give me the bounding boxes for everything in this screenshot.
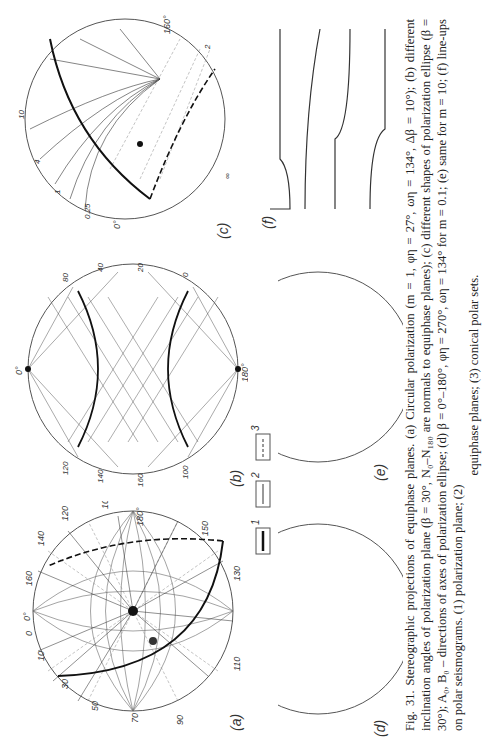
stereonet-d: [278, 509, 403, 739]
svg-text:∞: ∞: [223, 173, 232, 179]
stereonet-a: 90705030 1000°160 140120100 110130150180…: [8, 501, 248, 731]
svg-text:120: 120: [61, 461, 70, 475]
svg-text:10: 10: [36, 651, 46, 661]
svg-text:0°: 0°: [112, 220, 122, 229]
svg-text:180°: 180°: [240, 363, 248, 382]
svg-text:70: 70: [130, 713, 140, 723]
panel-a: 90705030 1000°160 140120100 110130150180…: [8, 501, 248, 731]
polar-seismograms-f: [260, 9, 400, 229]
svg-text:0°: 0°: [14, 366, 24, 375]
legend-num-2: 2: [250, 472, 261, 478]
legend-num-3: 3: [250, 425, 261, 431]
panel-label-a: (a): [228, 714, 244, 731]
svg-text:100: 100: [100, 501, 110, 509]
svg-text:150: 150: [200, 521, 210, 536]
svg-text:40: 40: [96, 263, 105, 272]
svg-text:2: 2: [203, 44, 212, 50]
panel-label-c: (c): [215, 223, 231, 239]
panel-b: 0°180° 120140100160 8040200 (b): [8, 252, 248, 487]
panel-label-e: (e): [372, 464, 388, 481]
svg-text:80: 80: [61, 273, 70, 282]
svg-text:140: 140: [36, 531, 46, 546]
svg-text:130: 130: [232, 566, 242, 581]
svg-text:90: 90: [175, 715, 185, 725]
svg-text:20: 20: [136, 263, 145, 273]
svg-text:110: 110: [232, 657, 242, 671]
svg-text:30: 30: [60, 679, 70, 689]
svg-text:4: 4: [33, 159, 42, 164]
svg-text:0°: 0°: [22, 612, 32, 621]
stereonet-b: 0°180° 120140100160 8040200: [8, 252, 248, 487]
panel-label-b: (b): [228, 470, 244, 487]
rotated-figure-page: 90705030 1000°160 140120100 110130150180…: [0, 0, 488, 749]
svg-text:0.25: 0.25: [83, 203, 92, 219]
panel-f: (f): [260, 9, 400, 229]
panel-label-f: (f): [260, 216, 276, 229]
svg-text:180°: 180°: [135, 507, 145, 526]
svg-text:120: 120: [60, 506, 70, 521]
svg-text:50: 50: [90, 701, 100, 711]
svg-text:100: 100: [181, 465, 190, 479]
panel-label-d: (d): [372, 720, 388, 737]
legend-swatches: [250, 409, 280, 559]
panel-e: [278, 247, 403, 487]
legend-num-1: 1: [250, 519, 261, 525]
svg-text:10: 10: [17, 110, 26, 119]
panel-d: [278, 509, 403, 739]
svg-text:140: 140: [96, 469, 105, 483]
stereonet-c: 0°0.251410 160°2∞: [10, 9, 240, 239]
caption-line-4: equiphase planes; (3) conical polar sets…: [466, 19, 482, 731]
svg-text:160: 160: [136, 473, 145, 487]
svg-text:160: 160: [24, 571, 34, 586]
svg-text:0: 0: [24, 631, 34, 636]
panel-c: 0°0.251410 160°2∞ (c): [10, 9, 240, 239]
svg-text:1: 1: [53, 190, 62, 194]
stereonet-e: [278, 247, 403, 487]
figure-caption: Fig. 31. Stereographic projections of eq…: [402, 19, 482, 731]
svg-text:160°: 160°: [162, 15, 172, 34]
svg-text:0: 0: [181, 272, 190, 277]
legend: 1 2 3: [250, 409, 280, 559]
